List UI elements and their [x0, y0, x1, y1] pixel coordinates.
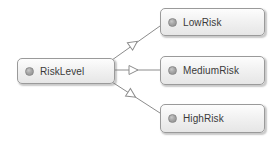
class-node-label: MediumRisk — [183, 65, 264, 76]
edge-risklevel-to-mediumrisk[interactable] — [115, 66, 160, 75]
class-node-icon — [168, 18, 177, 27]
edge-risklevel-to-lowrisk[interactable] — [112, 26, 160, 60]
class-node-label: LowRisk — [183, 17, 264, 28]
class-node-label: HighRisk — [183, 113, 264, 124]
class-node-label: RiskLevel — [40, 66, 114, 77]
class-node-lowrisk[interactable]: LowRisk — [160, 8, 265, 36]
diagram-canvas: RiskLevel LowRisk MediumRisk HighRisk — [0, 0, 279, 141]
class-node-highrisk[interactable]: HighRisk — [160, 104, 265, 133]
generalization-arrowhead-icon — [129, 66, 138, 75]
class-node-mediumrisk[interactable]: MediumRisk — [160, 56, 265, 85]
class-node-risklevel[interactable]: RiskLevel — [17, 58, 115, 84]
edge-risklevel-to-highrisk[interactable] — [112, 82, 160, 113]
class-node-icon — [168, 66, 177, 75]
class-node-icon — [25, 67, 34, 76]
generalization-arrowhead-icon — [126, 89, 138, 101]
class-node-icon — [168, 114, 177, 123]
